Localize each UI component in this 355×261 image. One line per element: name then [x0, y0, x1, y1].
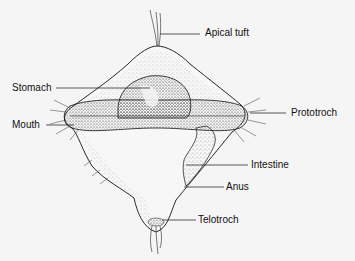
label-anus: Anus — [226, 181, 249, 193]
label-apical-tuft: Apical tuft — [205, 27, 249, 39]
telotroch-band — [148, 218, 164, 226]
label-intestine: Intestine — [251, 159, 289, 171]
trochophore-diagram — [0, 0, 355, 261]
label-telotroch: Telotroch — [198, 214, 239, 226]
label-stomach: Stomach — [12, 82, 51, 94]
label-mouth: Mouth — [12, 119, 40, 131]
label-prototroch: Prototroch — [291, 107, 337, 119]
apical-tuft-cilia — [150, 10, 161, 46]
